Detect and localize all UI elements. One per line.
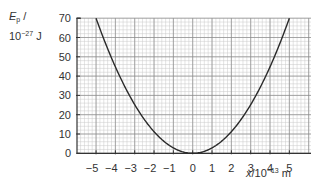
minor-grid [77,18,311,153]
x-axis-label: x/10−13 m [246,167,291,179]
x-tick-label: 1 [209,162,215,174]
x-tick-label: 0 [190,162,196,174]
y-tick-label: 50 [59,51,71,63]
x-tick-label: −4 [105,162,118,174]
major-grid [77,18,311,153]
axes [77,18,311,153]
x-tick-label: −2 [144,162,157,174]
x-tick-label: −5 [86,162,99,174]
y-tick-label: 30 [59,89,71,101]
y-tick-label: 40 [59,70,71,82]
y-tick-label: 60 [59,32,71,44]
y-tick-label: 20 [59,109,71,121]
y-tick-label: 70 [59,12,71,24]
x-tick-label: −3 [124,162,137,174]
y-axis-label: Ep / 10−27 J [9,9,42,43]
potential-energy-chart: −5−4−3−2−1012345010203040506070 [0,0,315,186]
y-tick-label: 0 [65,147,71,159]
x-tick-label: 2 [228,162,234,174]
x-tick-label: −1 [163,162,176,174]
y-tick-label: 10 [59,128,71,140]
